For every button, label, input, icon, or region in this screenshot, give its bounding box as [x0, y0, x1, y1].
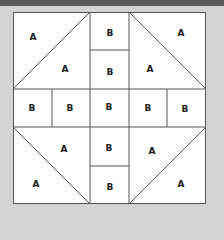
- piece-label-a: A: [61, 144, 68, 154]
- piece-label-b: B: [106, 102, 113, 112]
- piece-label-b: B: [107, 28, 114, 38]
- piece-label-b: B: [67, 103, 74, 113]
- piece-label-a: A: [147, 64, 154, 74]
- piece-label-b: B: [182, 104, 189, 114]
- piece-label-b: B: [107, 67, 114, 77]
- piece-label-a: A: [33, 179, 40, 189]
- piece-label-a: A: [178, 28, 185, 38]
- piece-label-b: B: [106, 143, 113, 153]
- piece-label-b: B: [145, 103, 152, 113]
- piece-label-b: B: [29, 103, 36, 113]
- piece-label-b: B: [107, 182, 114, 192]
- piece-label-a: A: [30, 32, 37, 42]
- piece-label-a: A: [178, 179, 185, 189]
- piece-label-a: A: [62, 64, 69, 74]
- piece-label-a: A: [149, 146, 156, 156]
